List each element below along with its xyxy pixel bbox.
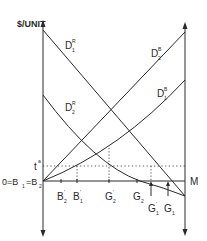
svg-text:': ' xyxy=(113,189,114,195)
svg-text:B: B xyxy=(164,86,168,92)
svg-text:1: 1 xyxy=(172,210,175,216)
svg-text:a: a xyxy=(38,158,41,164)
svg-text:2: 2 xyxy=(72,109,75,115)
svg-text:1: 1 xyxy=(72,47,75,53)
svg-text:R: R xyxy=(72,38,76,44)
economics-diagram: $/UNIT D 1 R D 2 R D 2 B D 1 B t a 0=B 1… xyxy=(0,0,207,241)
svg-text:R: R xyxy=(72,100,76,106)
svg-text:2: 2 xyxy=(158,55,161,61)
svg-text:=B: =B xyxy=(26,177,37,187)
label-g2: G 2 xyxy=(133,191,144,204)
right-axis-down-arrow-icon xyxy=(183,229,188,236)
svg-text:1: 1 xyxy=(164,95,167,101)
svg-text:B: B xyxy=(73,191,80,202)
svg-text:G: G xyxy=(164,203,172,214)
label-m: M xyxy=(190,176,198,187)
g1-arrow-icon xyxy=(166,181,170,186)
svg-text:1: 1 xyxy=(22,183,25,189)
svg-text:G: G xyxy=(133,191,141,202)
svg-text:B: B xyxy=(57,191,64,202)
svg-text:2: 2 xyxy=(141,198,144,204)
right-axis-up-arrow-icon xyxy=(183,22,188,29)
svg-text:0=B: 0=B xyxy=(2,177,18,187)
svg-text:G: G xyxy=(105,191,113,202)
label-d2-b: D 2 B xyxy=(151,46,162,61)
label-t-star: t a xyxy=(34,158,41,172)
svg-text:2: 2 xyxy=(113,198,116,204)
label-b2-prime: B ' 2 xyxy=(57,189,67,204)
svg-text:t: t xyxy=(34,161,37,172)
label-d1-b: D 1 B xyxy=(157,86,168,101)
svg-text:B: B xyxy=(158,46,162,52)
label-g1-prime: G ' 1 xyxy=(148,201,159,216)
label-origin: 0=B 1 =B 2 xyxy=(2,177,42,189)
svg-text:1: 1 xyxy=(80,198,83,204)
svg-text:2: 2 xyxy=(64,198,67,204)
left-axis-down-arrow-icon xyxy=(41,230,46,237)
label-g1: G 1 xyxy=(164,203,175,216)
svg-text:': ' xyxy=(80,189,81,195)
label-d1-r: D 1 R xyxy=(65,38,76,53)
svg-text:2: 2 xyxy=(39,183,42,189)
svg-text:G: G xyxy=(148,203,156,214)
label-b1-prime: B ' 1 xyxy=(73,189,83,204)
svg-text:': ' xyxy=(156,201,157,207)
label-d2-r: D 2 R xyxy=(65,100,76,115)
svg-text:': ' xyxy=(64,189,65,195)
label-g2-prime: G ' 2 xyxy=(105,189,116,204)
y-axis-label: $/UNIT xyxy=(17,19,46,29)
svg-text:1: 1 xyxy=(156,210,159,216)
